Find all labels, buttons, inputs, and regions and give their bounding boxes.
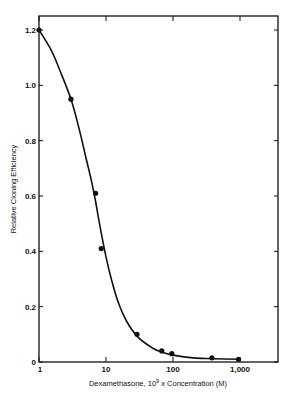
data-point xyxy=(134,332,139,337)
x-tick-label: 10 xyxy=(102,365,111,374)
y-axis-title: Relative Cloning Efficiency xyxy=(9,144,18,233)
chart: 00.20.40.60.81.01.2 1101001,000 Relative… xyxy=(0,0,294,397)
plot-frame xyxy=(39,16,278,362)
data-point xyxy=(159,348,164,353)
y-tick-label: 0.2 xyxy=(25,303,37,312)
x-axis-ticks: 1101001,000 xyxy=(38,16,251,374)
data-points xyxy=(36,27,241,361)
y-tick-label: 0.8 xyxy=(25,137,37,146)
data-point xyxy=(36,27,41,32)
data-point xyxy=(99,246,104,251)
x-tick-label: 100 xyxy=(166,365,180,374)
data-point xyxy=(93,191,98,196)
y-tick-label: 0.4 xyxy=(25,247,37,256)
axes-box xyxy=(39,16,278,362)
y-tick-label: 0.6 xyxy=(25,192,37,201)
data-point xyxy=(236,357,241,362)
y-tick-label: 0 xyxy=(32,358,37,367)
x-axis-title-prefix: Dexamethasone, 10 xyxy=(89,379,156,388)
fitted-curve xyxy=(39,30,240,359)
x-axis-title: Dexamethasone, 109 x Concentration (M) xyxy=(89,378,228,388)
data-point xyxy=(169,351,174,356)
data-point xyxy=(68,97,73,102)
x-tick-label: 1 xyxy=(38,365,43,374)
x-axis-title-suffix: x Concentration (M) xyxy=(159,379,227,388)
y-tick-label: 1.0 xyxy=(25,81,37,90)
data-point xyxy=(209,355,214,360)
y-tick-label: 1.2 xyxy=(25,26,37,35)
x-tick-label: 1,000 xyxy=(230,365,251,374)
